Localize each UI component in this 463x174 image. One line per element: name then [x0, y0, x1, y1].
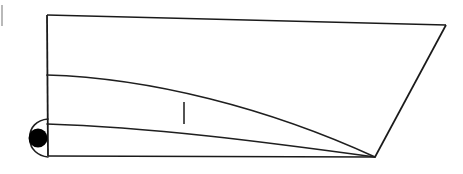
pivot-marker-dot: [29, 129, 48, 148]
hull-profile-diagram: [0, 0, 463, 174]
figure-background: [0, 0, 463, 174]
base-line: [48, 156, 375, 157]
stem-line: [47, 15, 48, 156]
figure-root: [0, 0, 463, 174]
